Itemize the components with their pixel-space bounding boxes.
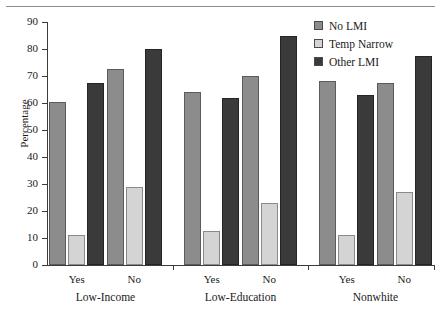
x-axis-group-label: Low-Education	[183, 291, 298, 303]
bar	[87, 83, 104, 265]
y-axis-tick-label: 30	[0, 178, 38, 189]
bar	[222, 98, 239, 265]
x-axis-category-label: No	[376, 274, 434, 285]
legend-item-label: No LMI	[329, 20, 367, 32]
bar	[377, 83, 394, 265]
bar	[261, 203, 278, 265]
legend-swatch-icon	[314, 39, 323, 48]
chart-figure: 0102030405060708090 Percentage YesNoYesN…	[0, 0, 441, 312]
bar	[145, 49, 162, 265]
legend-item-label: Temp Narrow	[329, 38, 393, 50]
bar	[280, 36, 297, 266]
bar	[415, 56, 432, 265]
x-axis-group-separator	[308, 265, 309, 270]
x-axis-category-label: Yes	[48, 274, 106, 285]
legend-item-label: Other LMI	[329, 56, 379, 68]
x-axis-group-label: Nonwhite	[318, 291, 433, 303]
y-axis-title: Percentage	[19, 79, 30, 169]
x-axis-end-tick	[434, 265, 435, 270]
legend-swatch-icon	[314, 57, 323, 66]
x-axis-group-separator	[173, 265, 174, 270]
y-axis-tick-label: 0	[0, 259, 38, 270]
bar	[242, 76, 259, 265]
bar	[126, 187, 143, 265]
bar	[203, 231, 220, 265]
bar	[184, 92, 201, 265]
x-axis-category-label: No	[241, 274, 299, 285]
legend-item: Other LMI	[314, 54, 434, 69]
x-axis-line	[47, 265, 434, 266]
x-axis-category-label: Yes	[318, 274, 376, 285]
bar	[107, 69, 124, 265]
legend-swatch-icon	[314, 21, 323, 30]
legend-item: Temp Narrow	[314, 36, 434, 51]
y-axis-tick-label: 10	[0, 232, 38, 243]
legend-item: No LMI	[314, 18, 434, 33]
y-axis-tick-label: 20	[0, 205, 38, 216]
bar	[357, 95, 374, 265]
bar	[338, 235, 355, 265]
y-axis-tick-label: 80	[0, 43, 38, 54]
x-axis-category-label: No	[106, 274, 164, 285]
chart-legend: No LMITemp NarrowOther LMI	[314, 18, 434, 72]
y-axis-tick-label: 90	[0, 16, 38, 27]
y-axis-tick	[42, 265, 48, 266]
bar	[396, 192, 413, 265]
bar	[319, 81, 336, 265]
x-axis-category-label: Yes	[183, 274, 241, 285]
bar	[49, 102, 66, 265]
top-divider-rule	[6, 6, 435, 7]
bar	[68, 235, 85, 265]
x-axis-group-label: Low-Income	[48, 291, 163, 303]
